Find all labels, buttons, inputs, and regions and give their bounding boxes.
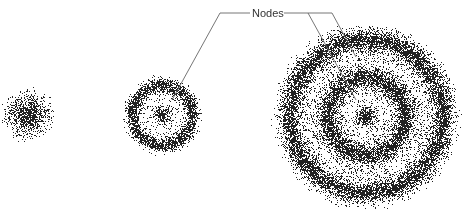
orbital-diagram: Nodes [0,0,462,220]
nodes-label: Nodes [252,7,284,19]
leader-line-3s-inner-node [284,13,356,100]
leader-line-3s-outer-node [308,13,356,57]
leader-line-2s-node [172,13,250,100]
node-leader-lines [0,0,462,220]
